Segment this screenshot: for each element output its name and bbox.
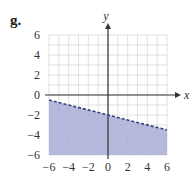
x-tick-label: 4 [144,160,150,174]
x-tick-label: 2 [125,160,131,174]
y-tick-label: 0 [34,88,40,102]
inequality-graph: −6−4−20246−6−4−20246xy [0,0,192,176]
y-tick-label: −4 [27,128,40,142]
x-tick-label: 6 [164,160,170,174]
y-tick-label: 6 [34,28,40,42]
y-axis-label: y [102,9,109,23]
x-axis-arrow-icon [175,92,181,98]
x-tick-label: −2 [82,160,95,174]
x-tick-label: −6 [43,160,56,174]
y-tick-label: −2 [27,108,40,122]
y-tick-label: 2 [34,68,40,82]
y-axis-arrow-icon [105,23,111,29]
y-tick-label: 4 [34,48,40,62]
y-tick-label: −6 [27,148,40,162]
x-axis-label: x [183,88,190,102]
x-tick-label: 0 [105,160,111,174]
x-tick-label: −4 [62,160,75,174]
